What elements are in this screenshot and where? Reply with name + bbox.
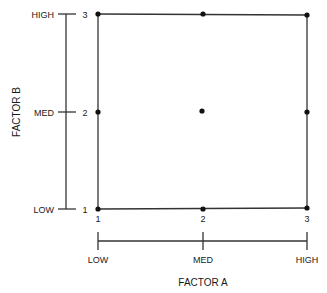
factor-b-level-label-med: MED <box>34 108 55 118</box>
factor-b-level-code-1: 1 <box>82 205 87 215</box>
factor-a-axis: LOW MED HIGH FACTOR A <box>88 232 319 288</box>
design-point-a2-b2 <box>199 108 204 113</box>
factor-a-axis-title: FACTOR A <box>178 277 228 288</box>
factor-b-axis-title: FACTOR B <box>11 87 22 137</box>
design-point-a3-b1 <box>304 205 309 210</box>
design-point-a3-b3 <box>304 12 309 17</box>
factor-a-level-label-high: HIGH <box>296 255 319 265</box>
factor-b-level-label-low: LOW <box>33 205 54 215</box>
factor-a-level-code-3: 3 <box>304 214 309 224</box>
factor-b-axis: HIGH MED LOW 3 2 1 FACTOR B <box>11 10 88 215</box>
design-point-a2-b3 <box>200 11 205 16</box>
design-point-a1-b3 <box>95 11 100 16</box>
factor-b-level-code-3: 3 <box>82 10 87 20</box>
factorial-design-diagram: HIGH MED LOW 3 2 1 FACTOR B 1 2 3 LOW ME… <box>0 0 327 293</box>
factor-a-level-label-low: LOW <box>88 255 109 265</box>
factor-a-level-code-2: 2 <box>200 214 205 224</box>
factor-a-level-code-1: 1 <box>95 214 100 224</box>
factor-b-level-code-2: 2 <box>82 108 87 118</box>
design-point-a1-b2 <box>95 109 100 114</box>
design-point-a3-b2 <box>304 109 309 114</box>
factor-a-codes: 1 2 3 <box>95 214 309 224</box>
factor-b-level-label-high: HIGH <box>32 10 55 20</box>
design-point-a1-b1 <box>95 206 100 211</box>
design-point-a2-b1 <box>200 206 205 211</box>
factor-a-level-label-med: MED <box>193 255 214 265</box>
design-points <box>95 11 309 211</box>
